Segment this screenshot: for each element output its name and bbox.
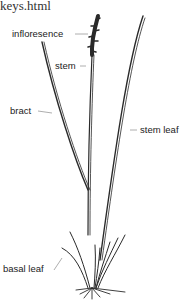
label-inflorescence: infloresence bbox=[12, 29, 63, 39]
label-bract: bract bbox=[10, 106, 31, 116]
label-basal-leaf: basal leaf bbox=[3, 264, 44, 274]
label-stem-leaf: stem leaf bbox=[140, 125, 179, 135]
plant-illustration bbox=[0, 0, 189, 300]
label-stem: stem bbox=[55, 61, 76, 71]
